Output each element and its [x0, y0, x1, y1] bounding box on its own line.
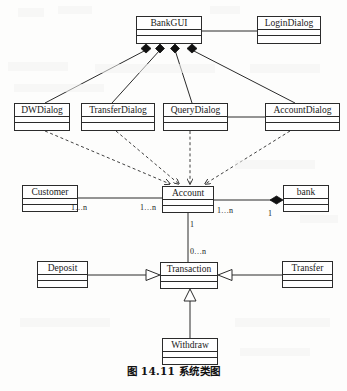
- class-operations-deposit: [38, 281, 87, 287]
- class-name-accountdialog: AccountDialog: [266, 104, 339, 117]
- class-name-dwdialog: DWDialog: [15, 104, 69, 117]
- class-name-logindialog: LoginDialog: [258, 17, 320, 30]
- multiplicity-customer-to-account: 1…n: [71, 203, 87, 212]
- line-accountdialog-account: [205, 131, 290, 184]
- class-operations-transferdialog: [82, 123, 154, 130]
- scan-artifact: [95, 64, 215, 73]
- triangle-deposit-transaction: [146, 270, 160, 281]
- class-operations-bank: [284, 205, 328, 211]
- triangle-transfer-transaction: [218, 270, 232, 281]
- class-box-logindialog[interactable]: LoginDialog: [257, 16, 321, 44]
- scan-artifact: [300, 215, 338, 223]
- class-operations-transfer: [283, 281, 332, 287]
- class-box-deposit[interactable]: Deposit: [37, 261, 88, 288]
- class-name-withdraw: Withdraw: [163, 339, 217, 352]
- scan-artifact: [240, 348, 310, 356]
- scan-artifact: [18, 8, 44, 17]
- class-box-transfer[interactable]: Transfer: [282, 261, 333, 288]
- line-dwdialog-account: [45, 131, 170, 184]
- class-operations-customer: [23, 205, 77, 211]
- class-operations-transaction: [161, 282, 217, 288]
- scan-artifact: [14, 84, 104, 92]
- class-operations-logindialog: [258, 36, 320, 43]
- line-bankgui-transferdialog: [112, 50, 160, 103]
- class-box-querydialog[interactable]: QueryDialog: [163, 103, 228, 131]
- class-name-bank: bank: [284, 186, 328, 199]
- scan-artifact: [210, 6, 240, 14]
- class-name-bankgui: BankGUI: [137, 17, 201, 30]
- scan-artifact: [235, 318, 330, 327]
- class-name-customer: Customer: [23, 186, 77, 199]
- class-box-transaction[interactable]: Transaction: [160, 262, 218, 289]
- scan-artifact: [8, 62, 68, 71]
- class-box-dwdialog[interactable]: DWDialog: [14, 103, 70, 131]
- class-operations-bankgui: [137, 36, 201, 43]
- scan-artifact: [250, 64, 320, 73]
- diamond-account-bank: [270, 196, 283, 204]
- line-bankgui-dwdialog: [45, 50, 146, 103]
- multiplicity-bank-side: 1: [268, 209, 272, 218]
- class-box-account[interactable]: Account: [162, 186, 214, 213]
- scan-artifact: [20, 318, 110, 327]
- line-transferdialog-account: [116, 131, 179, 184]
- scan-artifact: [58, 6, 92, 14]
- class-operations-account: [163, 206, 213, 212]
- class-name-transfer: Transfer: [283, 262, 332, 275]
- class-name-querydialog: QueryDialog: [164, 104, 227, 117]
- class-operations-dwdialog: [15, 123, 69, 130]
- class-box-customer[interactable]: Customer: [22, 185, 78, 212]
- class-name-transferdialog: TransferDialog: [82, 104, 154, 117]
- diamond-bankgui-querydialog: [171, 44, 180, 53]
- line-bankgui-accountdialog: [192, 50, 295, 103]
- triangle-withdraw-transaction: [184, 289, 196, 301]
- class-box-bankgui[interactable]: BankGUI: [136, 16, 202, 44]
- line-bankgui-querydialog: [175, 50, 192, 103]
- scan-artifact: [235, 160, 315, 169]
- multiplicity-transaction-side: 0…n: [190, 247, 206, 256]
- diamond-bankgui-transferdialog: [156, 44, 165, 53]
- class-box-transferdialog[interactable]: TransferDialog: [81, 103, 155, 131]
- figure-canvas: BankGUI LoginDialog DWDialog TransferDia…: [0, 0, 347, 391]
- class-box-accountdialog[interactable]: AccountDialog: [265, 103, 340, 131]
- class-box-withdraw[interactable]: Withdraw: [162, 338, 218, 365]
- multiplicity-account-right: 1…n: [217, 206, 233, 215]
- class-operations-accountdialog: [266, 123, 339, 130]
- multiplicity-account-left: 1…n: [140, 203, 156, 212]
- class-name-deposit: Deposit: [38, 262, 87, 275]
- class-operations-querydialog: [164, 123, 227, 130]
- class-box-bank[interactable]: bank: [283, 185, 329, 212]
- class-name-account: Account: [163, 187, 213, 200]
- figure-caption: 图 14.11 系统类图: [0, 364, 347, 378]
- multiplicity-account-transaction: 1: [190, 220, 194, 229]
- class-name-transaction: Transaction: [161, 263, 217, 276]
